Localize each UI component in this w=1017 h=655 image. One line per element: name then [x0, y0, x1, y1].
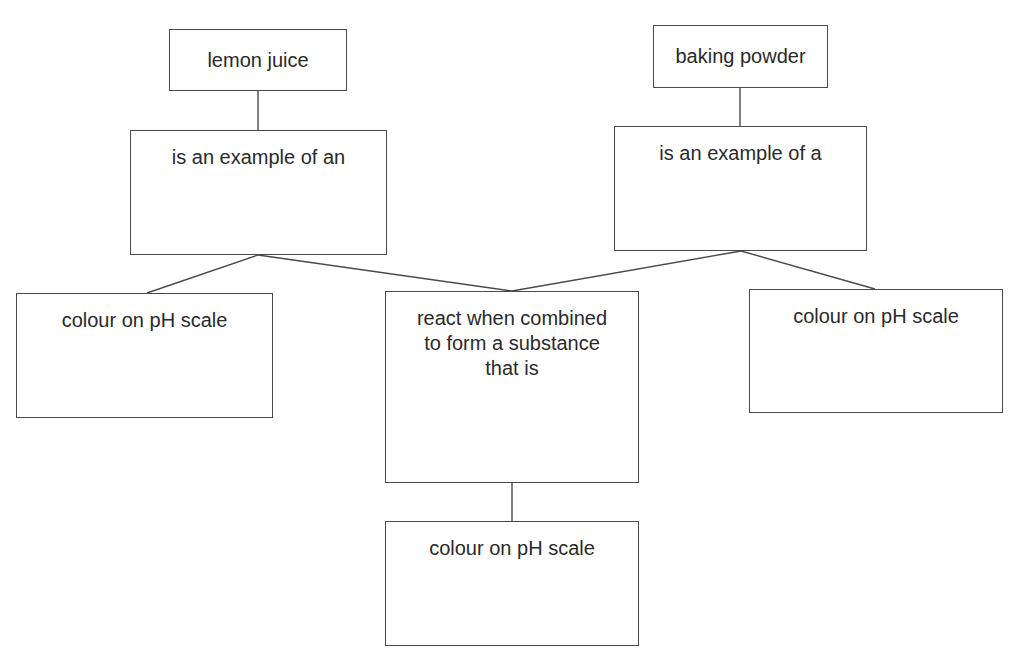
- node-label: react when combined to form a substance …: [386, 292, 638, 381]
- node-label: is an example of an: [131, 131, 386, 170]
- node-base-example: is an example of a: [614, 126, 867, 251]
- node-baking-powder: baking powder: [653, 25, 828, 88]
- node-lemon-juice: lemon juice: [169, 29, 347, 91]
- edge-base-example-to-ph-right: [741, 251, 875, 289]
- node-acid-example: is an example of an: [130, 130, 387, 255]
- edge-base-example-to-reaction: [512, 251, 741, 291]
- node-label: lemon juice: [207, 48, 308, 73]
- edge-acid-example-to-reaction: [258, 255, 512, 291]
- node-label: is an example of a: [615, 127, 866, 166]
- edge-acid-example-to-ph-left: [147, 255, 258, 293]
- node-label: colour on pH scale: [17, 294, 272, 333]
- node-label: baking powder: [675, 44, 805, 69]
- node-label: colour on pH scale: [750, 290, 1002, 329]
- node-reaction: react when combined to form a substance …: [385, 291, 639, 483]
- node-ph-colour-left: colour on pH scale: [16, 293, 273, 418]
- node-ph-colour-bottom: colour on pH scale: [385, 521, 639, 646]
- node-label: colour on pH scale: [386, 522, 638, 561]
- node-ph-colour-right: colour on pH scale: [749, 289, 1003, 413]
